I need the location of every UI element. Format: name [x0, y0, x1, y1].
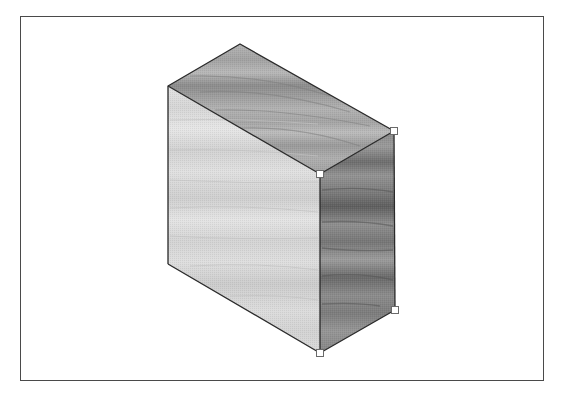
wood-box-drawing — [0, 0, 561, 393]
resize-handle-bottom-right[interactable] — [392, 307, 399, 314]
drawing-canvas — [0, 0, 561, 393]
resize-handle-front-top[interactable] — [317, 171, 324, 178]
resize-handle-top-right[interactable] — [391, 128, 398, 135]
resize-handle-bottom-mid[interactable] — [317, 350, 324, 357]
